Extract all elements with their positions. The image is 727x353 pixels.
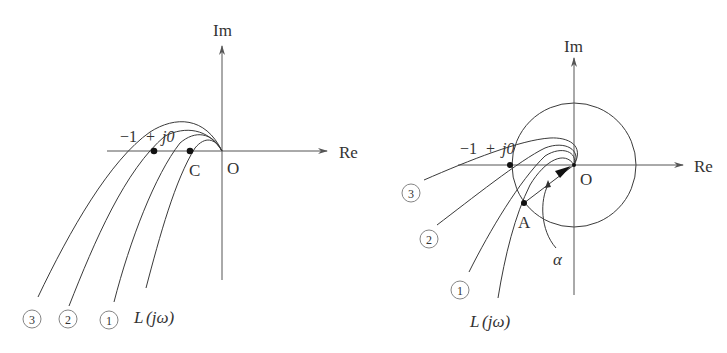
svg-text:3: 3 [29, 313, 35, 327]
right-critical-point [507, 162, 513, 168]
right-alpha-label: α [553, 250, 563, 269]
left-curve-L [146, 140, 222, 288]
left-curve-1 [114, 135, 222, 302]
svg-text:2: 2 [65, 313, 71, 327]
right-curve-L [498, 158, 574, 298]
left-point-c-label: C [189, 161, 200, 180]
left-critical-j0: j0 [160, 128, 174, 146]
right-alpha-arrowhead [545, 180, 551, 188]
left-nyquist-plot: Im Re O −1 + j0 C 3 2 1 L (jω) [23, 21, 358, 329]
left-curve-L-label: L (jω) [133, 308, 174, 327]
right-curve-3-label: 3 [402, 184, 420, 202]
svg-text:1: 1 [457, 284, 463, 298]
left-re-label: Re [339, 143, 358, 162]
right-angle-wedge [555, 166, 571, 178]
right-curve-L-label: L (jω) [469, 312, 510, 331]
left-curve-1-label: 1 [100, 311, 118, 329]
svg-text:(jω): (jω) [146, 308, 174, 327]
right-im-label: Im [564, 37, 583, 56]
right-origin-point [572, 163, 576, 167]
left-point-c [187, 148, 194, 155]
right-re-label: Re [694, 157, 713, 176]
svg-text:3: 3 [408, 187, 414, 201]
right-curve-3 [424, 138, 577, 180]
right-point-a [521, 200, 527, 206]
left-curve-2-label: 2 [59, 310, 77, 328]
right-critical-minus: −1 [460, 140, 477, 157]
svg-text:L: L [469, 312, 479, 331]
right-critical-plus: + [486, 140, 495, 157]
nyquist-diagrams: Im Re O −1 + j0 C 3 2 1 L (jω) [0, 0, 727, 353]
right-curve-1-label: 1 [451, 281, 469, 299]
right-critical-j0: j0 [500, 140, 514, 158]
left-origin-label: O [227, 159, 239, 178]
svg-text:2: 2 [426, 233, 432, 247]
left-curve-2 [69, 130, 222, 306]
left-critical-minus: −1 [120, 128, 137, 145]
left-critical-plus: + [146, 128, 155, 145]
right-curve-2-label: 2 [420, 230, 438, 248]
left-im-label: Im [213, 21, 232, 40]
right-nyquist-plot: Im Re O −1 + j0 A α 3 2 1 L (jω) [402, 37, 713, 331]
right-curve-2 [437, 145, 576, 225]
svg-text:1: 1 [106, 314, 112, 328]
right-origin-label: O [580, 170, 592, 189]
right-alpha-pointer [543, 185, 556, 248]
left-curve-3-label: 3 [23, 310, 41, 328]
svg-text:L: L [133, 308, 143, 327]
left-critical-point [151, 148, 158, 155]
right-point-a-label: A [518, 213, 531, 232]
svg-text:(jω): (jω) [482, 312, 510, 331]
left-curve-3 [38, 122, 222, 297]
